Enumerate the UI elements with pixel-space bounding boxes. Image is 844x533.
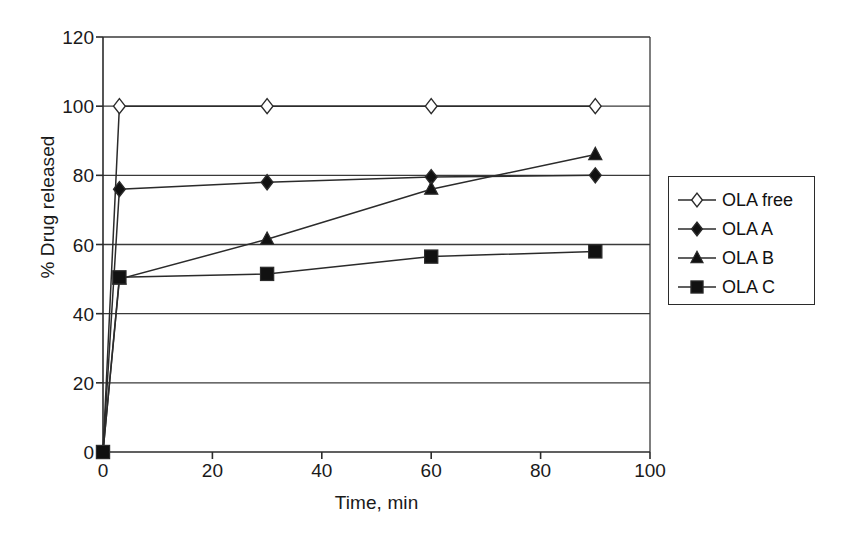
legend-marker-icon (676, 188, 718, 212)
data-series (103, 147, 602, 452)
x-axis-ticks (103, 452, 650, 459)
data-series (103, 168, 601, 452)
legend-item-label: OLA C (718, 278, 775, 296)
x-tick-label: 60 (401, 461, 461, 480)
y-tick-label: 20 (42, 374, 94, 393)
data-point-marker (589, 245, 602, 258)
data-point-marker (589, 147, 602, 159)
legend-item-label: OLA A (718, 220, 773, 238)
legend-item-label: OLA free (718, 191, 793, 209)
x-tick-label: 20 (182, 461, 242, 480)
legend-item-ola-a[interactable]: OLA A (669, 214, 814, 243)
data-point-marker (589, 168, 601, 183)
gridlines (103, 37, 650, 383)
data-point-marker (589, 99, 601, 114)
legend-marker-icon (676, 275, 718, 299)
data-point-marker (261, 267, 274, 280)
legend-item-ola-b[interactable]: OLA B (669, 243, 814, 272)
chart-legend: OLA freeOLA AOLA BOLA C (668, 176, 815, 305)
data-point-marker (114, 99, 126, 114)
y-tick-label: 0 (42, 443, 94, 462)
chart-figure: 020406080100120 020406080100 % Drug rele… (0, 0, 844, 533)
x-axis-title: Time, min (103, 492, 650, 514)
data-point-marker (96, 445, 109, 458)
legend-item-label: OLA B (718, 249, 774, 267)
x-tick-label: 0 (73, 461, 133, 480)
x-tick-label-group: 020406080100 (0, 461, 844, 489)
y-tick-label: 120 (42, 28, 94, 47)
data-point-marker (425, 250, 438, 263)
data-point-marker (113, 271, 126, 284)
data-point-marker (261, 99, 273, 114)
y-axis-title: % Drug released (37, 97, 59, 317)
legend-marker-icon (676, 246, 718, 270)
legend-item-ola-c[interactable]: OLA C (669, 272, 814, 301)
data-series (96, 245, 602, 459)
x-tick-label: 40 (292, 461, 352, 480)
y-axis-ticks (96, 37, 103, 452)
data-point-marker (425, 99, 437, 114)
data-point-marker (261, 175, 273, 190)
data-series-layer (96, 99, 602, 459)
legend-item-ola-free[interactable]: OLA free (669, 185, 814, 214)
x-tick-label: 80 (511, 461, 571, 480)
x-tick-label: 100 (620, 461, 680, 480)
legend-marker-icon (676, 217, 718, 241)
